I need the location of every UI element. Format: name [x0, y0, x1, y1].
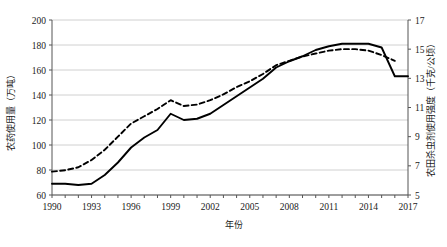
x-tick-label: 2014 [359, 202, 378, 212]
left-tick-label: 80 [37, 166, 47, 176]
right-tick-label: 11 [415, 103, 424, 113]
left-tick-label: 120 [32, 116, 47, 126]
x-tick-label: 2011 [320, 202, 339, 212]
right-tick-label: 5 [415, 191, 420, 201]
left-tick-label: 200 [32, 16, 47, 26]
left-axis-title: 农药使用量（万吨） [5, 70, 16, 151]
right-axis-title: 农田杀虫剂使用强度（千克/公顷） [425, 39, 436, 177]
left-tick-label: 180 [32, 41, 47, 51]
left-tick-label: 160 [32, 66, 47, 76]
left-axis [49, 20, 52, 195]
x-tick-label: 2002 [201, 202, 220, 212]
dual-axis-line-chart: 6080100120140160180200 57911131517 19901… [0, 0, 447, 247]
left-tick-label: 60 [37, 191, 47, 201]
x-tick-label: 1993 [82, 202, 101, 212]
right-axis [408, 20, 411, 195]
plot-area-background [52, 20, 408, 195]
x-axis-title: 年份 [225, 219, 243, 230]
left-tick-label: 140 [32, 91, 47, 101]
right-axis-tick-labels: 57911131517 [415, 16, 425, 201]
x-tick-label: 1999 [161, 202, 180, 212]
right-tick-label: 7 [415, 161, 420, 171]
right-tick-label: 9 [415, 132, 420, 142]
right-tick-label: 13 [415, 74, 425, 84]
x-axis-tick-labels: 1990199319961999200220052008201120142017 [43, 202, 418, 212]
left-tick-label: 100 [32, 141, 47, 151]
bottom-axis [52, 195, 408, 198]
x-tick-label: 1996 [122, 202, 141, 212]
right-tick-label: 17 [415, 16, 425, 26]
x-tick-label: 2017 [399, 202, 418, 212]
x-tick-label: 2008 [280, 202, 299, 212]
right-tick-label: 15 [415, 45, 425, 55]
x-tick-label: 2005 [240, 202, 259, 212]
x-tick-label: 1990 [43, 202, 62, 212]
chart-container: 6080100120140160180200 57911131517 19901… [0, 0, 447, 247]
left-axis-tick-labels: 6080100120140160180200 [32, 16, 47, 201]
